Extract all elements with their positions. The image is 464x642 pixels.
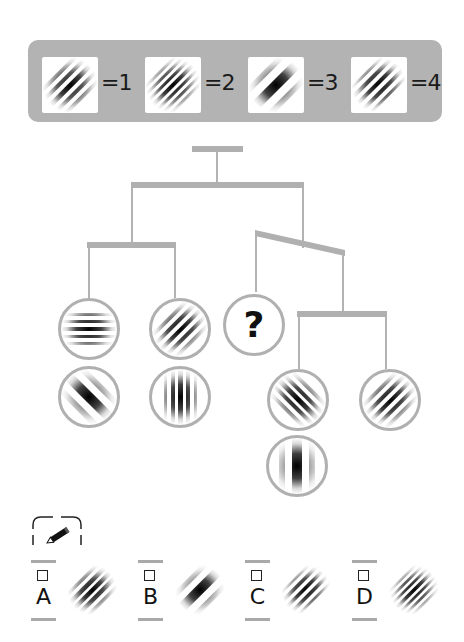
option-d-bottom-rule [352, 618, 377, 621]
right-subtree-left-leg [255, 234, 257, 292]
option-c-checkbox[interactable] [251, 570, 262, 581]
gabor-patch-icon [362, 372, 418, 428]
tree-node-horizontal [58, 298, 120, 360]
option-d-label: D [352, 584, 377, 609]
option-b-checkbox[interactable] [144, 570, 155, 581]
option-a-label: A [31, 584, 56, 609]
gabor-patch-icon [281, 565, 331, 615]
gabor-patch-icon [175, 565, 225, 615]
option-b-top-rule [138, 560, 163, 563]
gabor-patch-icon [152, 301, 208, 357]
option-b-bottom-rule [138, 618, 163, 621]
option-d-checkbox[interactable] [358, 570, 369, 581]
question-mark: ? [226, 297, 282, 353]
option-c-bottom-rule [245, 618, 270, 621]
lower-subtree-right-leg [385, 317, 387, 369]
gabor-patch-icon [67, 565, 117, 615]
option-d-top-rule [352, 560, 377, 563]
gabor-patch-icon [269, 438, 325, 494]
gabor-patch-icon [152, 369, 208, 425]
option-c-top-rule [245, 560, 270, 563]
gabor-patch-icon [61, 369, 117, 425]
option-a-bottom-rule [31, 618, 56, 621]
gabor-patch-icon [61, 301, 117, 357]
lower-subtree-bar [297, 311, 387, 317]
option-a-top-rule [31, 560, 56, 563]
tree-node-diagonal [359, 369, 421, 431]
tree-node-diagonal [149, 298, 211, 360]
lower-subtree-left-leg [298, 317, 300, 369]
pencil-icon [31, 515, 83, 547]
right-subtree-right-leg [342, 254, 344, 311]
gabor-patch-icon [389, 565, 439, 615]
tree-node-vertical [149, 366, 211, 428]
tree-node-low-freq-antidiagonal [58, 366, 120, 428]
gabor-patch-icon [270, 372, 326, 428]
option-b-label: B [138, 584, 163, 609]
option-c-label: C [245, 584, 270, 609]
tree-node-unknown: ? [223, 294, 285, 356]
option-a-checkbox[interactable] [37, 570, 48, 581]
tree-node-vertical-low-freq [266, 435, 328, 497]
tree-node-antidiagonal [267, 369, 329, 431]
